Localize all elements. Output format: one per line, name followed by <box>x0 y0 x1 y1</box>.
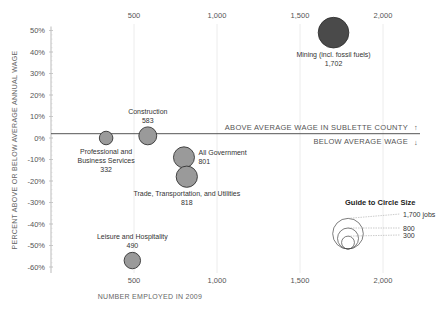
x-tick-label-top: 1,500 <box>291 11 310 20</box>
grid-lines <box>134 24 383 273</box>
size-guide-leader <box>348 214 400 218</box>
x-tick-label-top: 2,000 <box>374 11 393 20</box>
size-guide-circle <box>342 236 355 249</box>
x-tick-label-bottom: 2,000 <box>374 276 393 285</box>
bubble-label: Construction <box>128 108 167 115</box>
bubble-label: Trade, Transportation, and Utilities <box>133 190 240 198</box>
y-tick-label: -30% <box>27 198 45 207</box>
bubble-label: 818 <box>181 199 193 206</box>
y-tick-label: 30% <box>30 69 45 78</box>
bubble-label: 1,702 <box>325 60 343 67</box>
x-axis-title: NUMBER EMPLOYED IN 2009 <box>98 293 203 300</box>
x-tick-label-top: 1,000 <box>208 11 227 20</box>
size-guide-circle <box>338 228 359 249</box>
y-tick-label: -60% <box>27 263 45 272</box>
x-axis-top-ticks: 5001,0001,5002,000 <box>128 11 393 20</box>
y-tick-label: -40% <box>27 220 45 229</box>
size-guide-label: 300 <box>403 232 415 239</box>
size-guide-leader <box>348 235 400 236</box>
above-average-label: ABOVE AVERAGE WAGE IN SUBLETTE COUNTY <box>225 123 408 132</box>
bubble-label: All Government <box>198 149 246 156</box>
y-tick-label: 50% <box>30 26 45 35</box>
below-average-label: BELOW AVERAGE WAGE <box>313 137 408 146</box>
size-guide-label: 1,700 jobs <box>403 211 436 219</box>
size-guide-title: Guide to Circle Size <box>345 198 415 207</box>
arrow-up-icon: ↑ <box>414 123 418 132</box>
x-tick-label-bottom: 500 <box>128 276 141 285</box>
arrow-down-icon: ↓ <box>414 138 418 147</box>
bubble-label: 583 <box>142 117 154 124</box>
bubble-label: Mining (incl. fossil fuels) <box>296 51 370 59</box>
y-tick-label: -20% <box>27 177 45 186</box>
bubble <box>99 131 113 145</box>
x-axis-bottom-ticks: 5001,0001,5002,000 <box>128 276 393 285</box>
bubble-chart: 50%40%30%20%10%0%-10%-20%-30%-40%-50%-60… <box>0 0 447 310</box>
bubble-label: 332 <box>100 166 112 173</box>
size-guide: Guide to Circle Size1,700 jobs800300 <box>333 198 436 249</box>
y-tick-label: 20% <box>30 91 45 100</box>
y-axis: 50%40%30%20%10%0%-10%-20%-30%-40%-50%-60… <box>27 26 53 273</box>
x-tick-label-bottom: 1,000 <box>208 276 227 285</box>
bubble-label: 490 <box>126 242 138 249</box>
x-tick-label-top: 500 <box>128 11 141 20</box>
y-axis-title: PERCENT ABOVE OR BELOW AVERAGE ANNUAL WA… <box>11 51 18 250</box>
x-tick-label-bottom: 1,500 <box>291 276 310 285</box>
bubble-label: Business Services <box>78 157 136 164</box>
y-tick-label: -50% <box>27 241 45 250</box>
size-guide-circle <box>333 218 364 249</box>
bubble <box>173 147 194 168</box>
y-tick-label: 0% <box>34 134 45 143</box>
y-tick-label: 40% <box>30 48 45 57</box>
y-tick-label: 10% <box>30 112 45 121</box>
bubble-label: 801 <box>198 158 210 165</box>
bubble <box>124 252 140 268</box>
y-tick-label: -10% <box>27 155 45 164</box>
bubble <box>318 17 349 48</box>
bubble <box>176 166 197 187</box>
size-guide-label: 800 <box>403 225 415 232</box>
bubble <box>139 127 157 145</box>
bubble-label: Professional and <box>80 148 132 155</box>
bubble-label: Leisure and Hospitality <box>97 233 168 241</box>
